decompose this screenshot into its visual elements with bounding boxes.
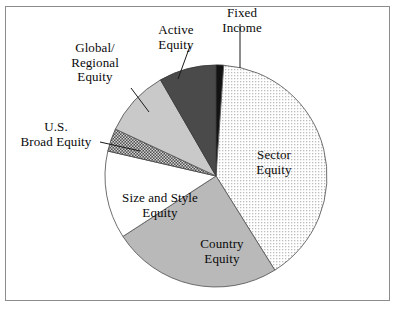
pie-label-country-equity: Country Equity: [183, 237, 261, 266]
pie-label-size-and-style-equity: Size and Style Equity: [108, 191, 212, 220]
pie-label-us-broad-equity: U.S. Broad Equity: [8, 120, 104, 149]
pie-label-active-equity: Active Equity: [145, 23, 207, 52]
pie-chart-figure: Sector Equity Country Equity Size and St…: [0, 0, 397, 309]
pie-label-sector-equity: Sector Equity: [240, 148, 308, 177]
pie-label-global-regional-equity: Global/ Regional Equity: [58, 41, 132, 85]
pie-label-fixed-income: Fixed Income: [209, 6, 275, 35]
